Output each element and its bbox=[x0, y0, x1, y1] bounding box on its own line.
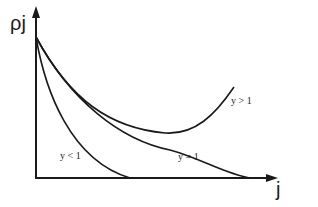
curve-label-y-less-1: y < 1 bbox=[60, 150, 81, 161]
curve-y-greater-1 bbox=[36, 37, 234, 133]
diagram-canvas bbox=[0, 0, 318, 207]
curve-label-y-greater-1: y > 1 bbox=[231, 95, 252, 106]
y-axis-arrow-icon bbox=[32, 6, 40, 18]
x-axis-label: j bbox=[276, 178, 280, 201]
curve-y-less-1 bbox=[36, 37, 130, 178]
y-axis-label: ρj bbox=[10, 12, 26, 35]
curve-label-y-equal-1: y = 1 bbox=[178, 151, 199, 162]
